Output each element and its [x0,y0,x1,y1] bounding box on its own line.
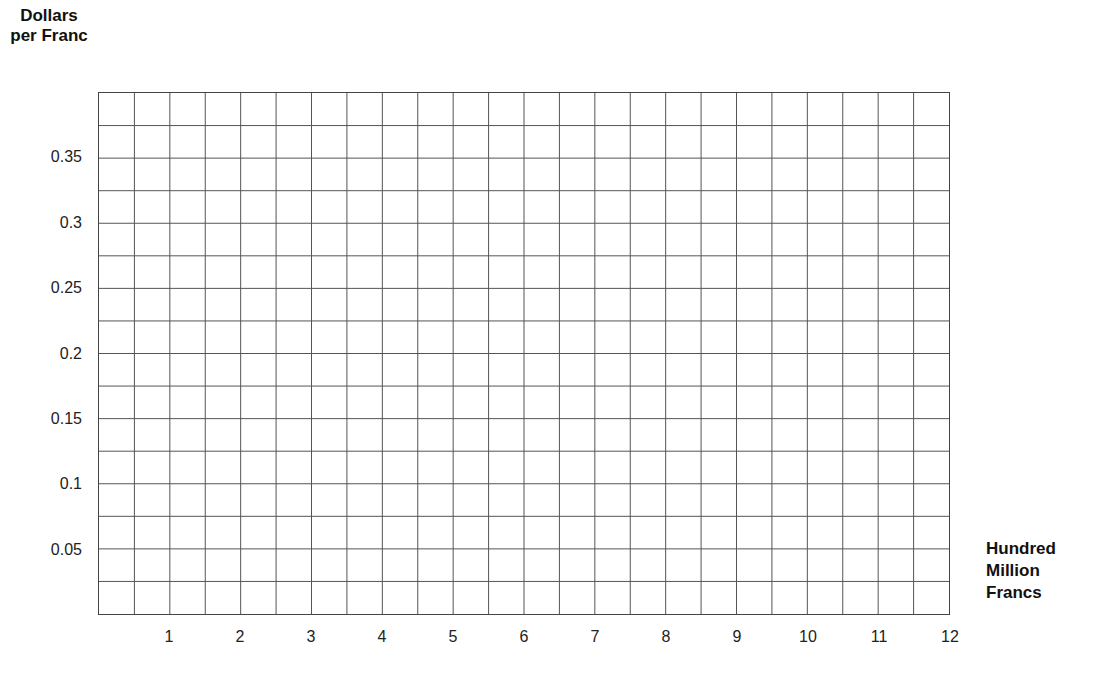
y-tick-label: 0.05 [12,541,82,559]
y-axis-title-line-1: Dollars [2,6,96,26]
x-tick-label: 4 [362,628,402,646]
x-tick-label: 2 [220,628,260,646]
x-tick-label: 1 [149,628,189,646]
x-tick-label: 11 [859,628,899,646]
x-tick-label: 12 [930,628,970,646]
x-tick-label: 6 [504,628,544,646]
x-axis-title-line-3: Francs [986,582,1056,604]
y-axis-title-line-2: per Franc [2,26,96,46]
y-tick-label: 0.35 [12,148,82,166]
x-axis-title-line-1: Hundred [986,538,1056,560]
y-axis-title: Dollars per Franc [2,6,96,46]
chart-grid [98,92,950,615]
x-axis-title: Hundred Million Francs [986,538,1056,604]
y-tick-label: 0.15 [12,410,82,428]
grid-lines [99,93,949,614]
y-tick-label: 0.25 [12,279,82,297]
x-tick-label: 9 [717,628,757,646]
x-tick-label: 3 [291,628,331,646]
x-tick-label: 10 [788,628,828,646]
y-tick-label: 0.2 [12,345,82,363]
x-tick-label: 7 [575,628,615,646]
y-tick-label: 0.3 [12,214,82,232]
x-tick-label: 5 [433,628,473,646]
x-axis-title-line-2: Million [986,560,1056,582]
x-tick-label: 8 [646,628,686,646]
y-tick-label: 0.1 [12,475,82,493]
